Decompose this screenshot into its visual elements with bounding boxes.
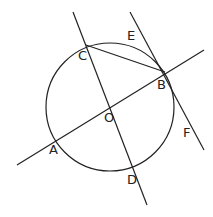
line-ab <box>17 50 204 165</box>
label-o: O <box>104 110 114 125</box>
label-d: D <box>127 172 137 187</box>
label-a: A <box>49 142 58 157</box>
label-f: F <box>183 125 190 140</box>
label-c: C <box>78 48 87 63</box>
geometry-diagram: C E B O F A D <box>0 0 213 217</box>
chord-cb <box>86 45 165 72</box>
label-e: E <box>127 28 135 43</box>
label-b: B <box>157 77 166 92</box>
tangent-line-ef <box>130 12 204 150</box>
